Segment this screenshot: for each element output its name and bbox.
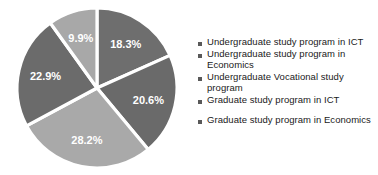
legend-item-label: Graduate study program in ICT: [207, 94, 339, 106]
pie-slice-data-label: 20.6%: [133, 94, 164, 106]
legend-item-label: Undergraduate study program in ICT: [207, 36, 363, 48]
pie-slice-data-label: 18.3%: [110, 38, 141, 50]
legend-marker-square-icon: [198, 100, 202, 104]
legend-item-label: Undergraduate study program in Economics: [207, 48, 376, 71]
pie-slice-data-label: 28.2%: [71, 134, 102, 146]
legend-marker-square-icon: [198, 54, 202, 58]
legend-item[interactable]: Graduate study program in ICT: [198, 94, 376, 106]
legend-marker-square-icon: [198, 42, 202, 46]
pie-chart-plot-area: 18.3%20.6%28.2%22.9%9.9%: [0, 0, 190, 175]
legend-item-label: Undergraduate Vocational study program: [207, 71, 376, 94]
pie-slice-data-label: 22.9%: [30, 70, 61, 82]
legend-marker-square-icon: [198, 77, 202, 81]
pie-chart-svg: 18.3%20.6%28.2%22.9%9.9%: [0, 0, 190, 175]
legend-item[interactable]: Undergraduate study program in Economics: [198, 48, 376, 71]
legend-item[interactable]: Undergraduate Vocational study program: [198, 71, 376, 94]
legend-item[interactable]: Undergraduate study program in ICT: [198, 36, 376, 48]
legend-marker-square-icon: [198, 120, 202, 124]
legend-item-label: Graduate study program in Economics: [207, 114, 371, 126]
pie-slice-data-label: 9.9%: [68, 32, 93, 44]
pie-chart-figure: 18.3%20.6%28.2%22.9%9.9% Undergraduate s…: [0, 0, 378, 175]
legend-item[interactable]: Graduate study program in Economics: [198, 114, 376, 126]
chart-legend: Undergraduate study program in ICT Under…: [198, 36, 376, 126]
